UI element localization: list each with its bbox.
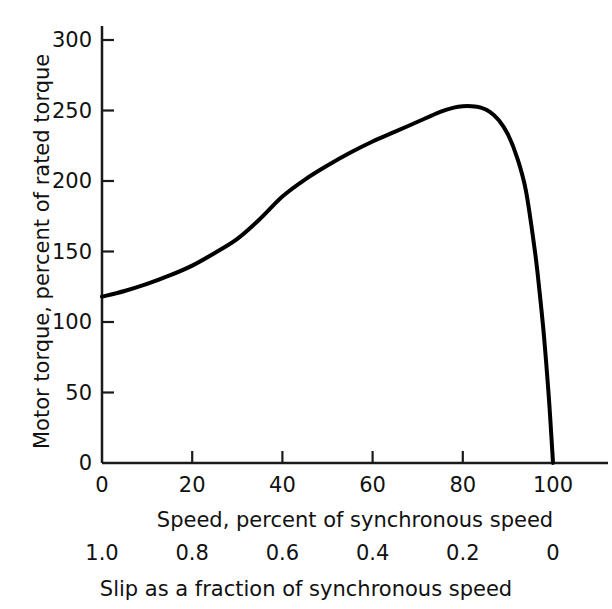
x-axis-ticks [192,451,553,463]
x-tick-label: 100 [533,473,573,497]
slip-axis-title: Slip as a fraction of synchronous speed [100,577,512,601]
y-axis-title: Motor torque, percent of rated torque [30,54,54,449]
y-axis-ticks [102,40,114,393]
slip-tick-label: 1.0 [85,541,118,565]
x-tick-label: 60 [359,473,386,497]
torque-speed-curve [102,106,553,463]
y-tick-label: 0 [30,451,92,475]
x-tick-label: 20 [179,473,206,497]
x-tick-label: 40 [269,473,296,497]
slip-tick-label: 0.2 [446,541,479,565]
data-series-group [102,106,553,463]
slip-tick-label: 0 [546,541,559,565]
y-tick-label: 300 [30,28,92,52]
chart-figure: 050100150200250300 020406080100 1.00.80.… [0,0,612,609]
x-tick-label: 0 [95,473,108,497]
x-axis-title: Speed, percent of synchronous speed [157,508,553,532]
slip-tick-label: 0.6 [266,541,299,565]
x-tick-label: 80 [449,473,476,497]
slip-tick-label: 0.8 [175,541,208,565]
slip-tick-label: 0.4 [356,541,389,565]
